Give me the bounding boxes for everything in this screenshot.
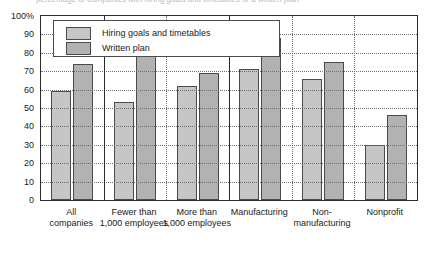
y-tick-label-0: 0 bbox=[0, 196, 34, 205]
bar-2-0 bbox=[177, 86, 197, 200]
y-tick-label-80: 80 bbox=[0, 49, 34, 58]
legend-label-0: Hiring goals and timetables bbox=[102, 28, 211, 38]
x-label-5-line-0: Nonprofit bbox=[345, 207, 424, 218]
legend-swatch-icon-1 bbox=[66, 42, 91, 55]
x-label-5: Nonprofit bbox=[345, 207, 424, 218]
bar-5-0 bbox=[365, 145, 385, 200]
y-tick-label-10: 10 bbox=[0, 178, 34, 187]
y-tick-label-50: 50 bbox=[0, 104, 34, 113]
bar-1-1 bbox=[136, 56, 156, 200]
legend: Hiring goals and timetables Written plan bbox=[53, 20, 280, 57]
x-label-2-line-1: 1,000 employees bbox=[157, 218, 236, 229]
group-separator-3 bbox=[292, 16, 293, 200]
legend-item-1: Written plan bbox=[60, 41, 273, 55]
bar-4-1 bbox=[324, 62, 344, 200]
y-tick-label-20: 20 bbox=[0, 159, 34, 168]
bar-1-0 bbox=[114, 102, 134, 200]
group-separator-4 bbox=[354, 16, 355, 200]
x-label-4-line-1: manufacturing bbox=[283, 218, 362, 229]
legend-item-0: Hiring goals and timetables bbox=[60, 26, 273, 40]
clipped-caption-text: percentage of companies with hiring goal… bbox=[36, 0, 366, 4]
legend-swatch-icon-0 bbox=[66, 27, 91, 40]
y-tick-label-70: 70 bbox=[0, 67, 34, 76]
legend-label-1: Written plan bbox=[102, 43, 150, 53]
y-tick-label-60: 60 bbox=[0, 86, 34, 95]
bar-chart: percentage of companies with hiring goal… bbox=[0, 0, 435, 266]
y-tick-label-100: 100% bbox=[0, 12, 34, 21]
y-tick-label-40: 40 bbox=[0, 122, 34, 131]
bar-3-1 bbox=[261, 38, 281, 200]
y-tick-label-30: 30 bbox=[0, 141, 34, 150]
clipped-caption: percentage of companies with hiring goal… bbox=[36, 0, 366, 5]
y-tick-label-90: 90 bbox=[0, 30, 34, 39]
bar-0-1 bbox=[73, 64, 93, 200]
bar-5-1 bbox=[387, 115, 407, 200]
